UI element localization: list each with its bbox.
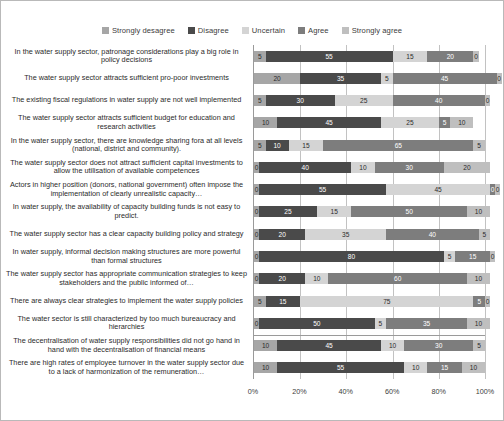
bar-segment: 5 xyxy=(444,251,456,262)
category-label: Actors in higher position (donors, natio… xyxy=(3,179,253,201)
bar-row: 51015655 xyxy=(254,134,485,156)
bar-segment: 10 xyxy=(254,362,277,373)
bar-segment: 50 xyxy=(351,206,467,217)
bar-segment-value: 40 xyxy=(302,164,309,171)
bar-segment: 10 xyxy=(266,140,289,151)
bar-segment: 75 xyxy=(300,296,473,307)
bar-segment-value: 5 xyxy=(477,142,481,149)
bar-segment-value: 10 xyxy=(273,142,280,149)
x-axis-line xyxy=(253,335,485,336)
bar-row: 104525510 xyxy=(254,112,485,134)
bar-segment: 50 xyxy=(259,318,375,329)
bar-segment-value: 10 xyxy=(475,208,482,215)
bar-segment: 5 xyxy=(254,51,266,62)
x-axis-tick-label: 80% xyxy=(431,387,445,396)
bar-row: 020106010 xyxy=(254,268,485,290)
bar-segment-value: 20 xyxy=(279,275,286,282)
category-label: The decentralisation of water supply res… xyxy=(3,334,253,356)
category-label-text: In water supply, informal decision makin… xyxy=(5,248,248,265)
bar-row: 0554500 xyxy=(254,179,485,201)
bar-segment-value: 55 xyxy=(337,364,344,371)
bar-segment: 0 xyxy=(485,95,490,106)
bar-segment: 20 xyxy=(427,51,473,62)
bar-segment-value: 0 xyxy=(486,298,490,305)
bar-segment: 45 xyxy=(277,340,381,351)
bar-segment-value: 45 xyxy=(325,342,332,349)
bar-segment: 20 xyxy=(259,273,305,284)
category-label-text: The water supply sector has appropriate … xyxy=(5,270,248,287)
bar-segment-value: 15 xyxy=(406,53,413,60)
bar-segment: 30 xyxy=(266,95,335,106)
bar-segment: 20 xyxy=(444,162,490,173)
bar-segment: 65 xyxy=(323,140,473,151)
bar-segment: 5 xyxy=(254,95,266,106)
category-label-text: The water supply sector has a clear capa… xyxy=(5,230,248,239)
bar-segment: 80 xyxy=(259,251,444,262)
legend-item: Disagree xyxy=(188,26,229,35)
bar-segment-value: 0 xyxy=(497,75,501,82)
bar-segment: 10 xyxy=(254,340,277,351)
bar-segment-value: 5 xyxy=(448,253,452,260)
category-label: The water supply sector has appropriate … xyxy=(3,268,253,290)
chart-legend: Strongly desagreeDisagreeUncertainAgreeS… xyxy=(1,23,503,37)
category-label: The water supply sector does not attract… xyxy=(3,156,253,178)
bar-segment: 15 xyxy=(317,206,352,217)
bar-segment-value: 10 xyxy=(470,364,477,371)
category-label: There are high rates of employee turnove… xyxy=(3,357,253,379)
bar-segment-value: 35 xyxy=(342,231,349,238)
bar-track: 55515200 xyxy=(254,51,485,62)
legend-item-label: Disagree xyxy=(198,26,229,35)
x-axis-ticks: 0%20%40%60%80%100% xyxy=(253,387,485,399)
bar-segment-value: 25 xyxy=(406,119,413,126)
legend-item-label: Uncertain xyxy=(252,26,285,35)
bar-segment-value: 10 xyxy=(262,364,269,371)
bar-row: 02035405 xyxy=(254,223,485,245)
category-label-text: In the water supply sector, patronage co… xyxy=(5,48,248,65)
bar-track: 20355450 xyxy=(254,73,485,84)
bar-segment: 5 xyxy=(381,73,393,84)
bar-segment-value: 0 xyxy=(255,208,259,215)
bar-segment: 5 xyxy=(375,318,387,329)
bar-track: 51015655 xyxy=(254,140,485,151)
bar-segment-value: 30 xyxy=(406,164,413,171)
bar-segment: 55 xyxy=(259,184,386,195)
bar-segment: 5 xyxy=(254,140,266,151)
bar-segment-value: 5 xyxy=(477,298,481,305)
bar-segment-value: 45 xyxy=(441,75,448,82)
bar-segment-value: 10 xyxy=(458,119,465,126)
x-axis-tick-label: 20% xyxy=(292,387,306,396)
bar-track: 104510305 xyxy=(254,340,485,351)
category-label: In water supply, informal decision makin… xyxy=(3,245,253,267)
bar-segment-value: 15 xyxy=(279,298,286,305)
bar-segment-value: 10 xyxy=(475,320,482,327)
bar-segment-value: 0 xyxy=(255,253,259,260)
bar-segment: 10 xyxy=(450,117,473,128)
bar-segment-value: 10 xyxy=(389,342,396,349)
bar-segment: 10 xyxy=(254,117,277,128)
bar-segment-value: 0 xyxy=(496,186,500,193)
bar-segment-value: 10 xyxy=(313,275,320,282)
bar-segment-value: 60 xyxy=(394,275,401,282)
bar-segment-value: 0 xyxy=(491,253,495,260)
bar-segment-value: 65 xyxy=(395,142,402,149)
bar-segment-value: 45 xyxy=(325,119,332,126)
bar-segment: 35 xyxy=(305,229,386,240)
bar-segment-value: 0 xyxy=(255,231,259,238)
bar-segment-value: 10 xyxy=(262,119,269,126)
bar-segment: 5 xyxy=(254,296,266,307)
category-label-text: Actors in higher position (donors, natio… xyxy=(5,181,248,198)
legend-swatch-icon xyxy=(298,27,305,34)
x-axis-tick-label: 100% xyxy=(476,387,494,396)
bar-segment: 55 xyxy=(266,51,393,62)
bar-segment: 20 xyxy=(254,73,300,84)
bar-row: 040103020 xyxy=(254,156,485,178)
legend-swatch-icon xyxy=(188,27,195,34)
bar-row: 1055101510 xyxy=(254,357,485,379)
bar-segment: 45 xyxy=(393,73,497,84)
category-label: The water supply sector has a clear capa… xyxy=(3,223,253,245)
bar-segment: 10 xyxy=(404,362,427,373)
bar-segment-value: 10 xyxy=(359,164,366,171)
plot-area: In the water supply sector, patronage co… xyxy=(1,45,504,385)
bar-segment: 15 xyxy=(289,140,324,151)
bar-segment: 5 xyxy=(479,229,491,240)
